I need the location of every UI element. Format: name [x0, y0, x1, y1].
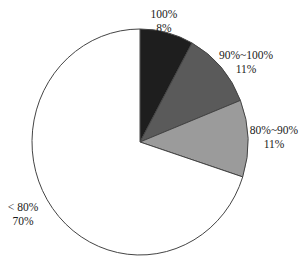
slice-category: < 80% — [8, 200, 38, 214]
slice-label-100: 100% 8% — [151, 7, 178, 35]
pie-slices — [32, 29, 248, 255]
slice-label-80-90: 80%~90% 11% — [250, 123, 298, 151]
slice-value: 70% — [8, 214, 38, 228]
slice-value: 8% — [151, 21, 178, 35]
slice-label-below-80: < 80% 70% — [8, 200, 38, 228]
slice-value: 11% — [219, 62, 273, 76]
slice-value: 11% — [250, 137, 298, 151]
slice-category: 80%~90% — [250, 123, 298, 137]
slice-label-90-100: 90%~100% 11% — [219, 48, 273, 76]
slice-category: 90%~100% — [219, 48, 273, 62]
slice-category: 100% — [151, 7, 178, 21]
